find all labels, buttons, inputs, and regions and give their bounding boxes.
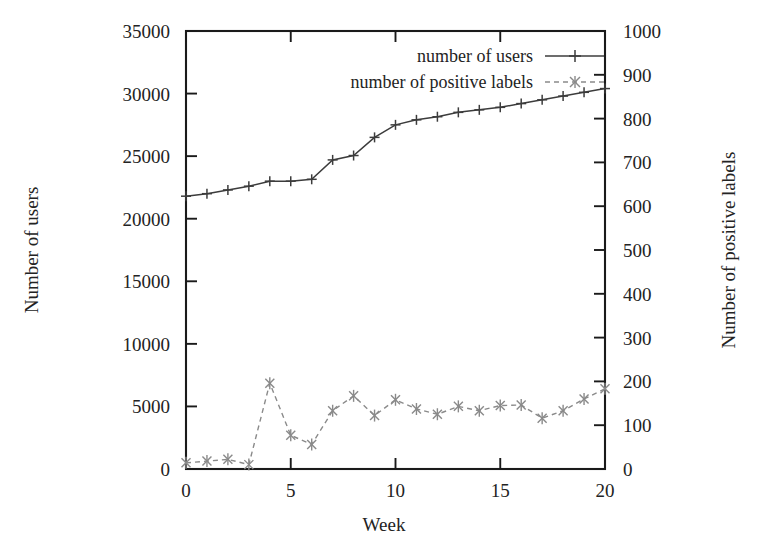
y-tick-label: 25000 bbox=[123, 146, 171, 167]
series-number-of-positive-labels bbox=[182, 377, 610, 470]
data-point-marker bbox=[558, 91, 568, 101]
data-point-marker bbox=[516, 99, 526, 109]
y-tick-label: 15000 bbox=[123, 271, 171, 292]
chart-legend: number of users number of positive label… bbox=[351, 46, 604, 92]
data-point-marker bbox=[223, 185, 233, 195]
data-point-marker bbox=[580, 393, 589, 405]
y2-tick-label: 100 bbox=[623, 415, 652, 436]
data-point-marker bbox=[286, 429, 295, 441]
y-axis-left-labels: 05000100001500020000250003000035000 bbox=[123, 21, 171, 480]
y2-tick-label: 800 bbox=[623, 109, 652, 130]
data-point-marker bbox=[286, 176, 296, 186]
data-point-marker bbox=[265, 377, 274, 389]
y2-axis-title: Number of positive labels bbox=[718, 152, 739, 349]
data-point-marker bbox=[538, 412, 547, 424]
data-point-marker bbox=[559, 405, 568, 417]
data-point-marker bbox=[391, 394, 400, 406]
data-point-marker bbox=[579, 87, 589, 97]
chart-figure: 05000100001500020000250003000035000 0100… bbox=[0, 0, 768, 559]
data-point-marker bbox=[601, 383, 610, 395]
data-point-marker bbox=[474, 105, 484, 115]
y-axis-right-ticks bbox=[594, 31, 605, 469]
series-number-of-users bbox=[181, 84, 610, 202]
y-tick-label: 10000 bbox=[123, 334, 171, 355]
y2-tick-label: 600 bbox=[623, 196, 652, 217]
data-point-marker bbox=[517, 399, 526, 411]
x-axis-labels: 05101520 bbox=[181, 480, 614, 501]
y-axis-left-ticks bbox=[186, 31, 197, 469]
x-tick-label: 20 bbox=[596, 480, 615, 501]
data-point-marker bbox=[244, 181, 254, 191]
y-tick-label: 0 bbox=[161, 459, 171, 480]
data-point-marker bbox=[307, 438, 316, 450]
x-tick-label: 0 bbox=[181, 480, 191, 501]
data-point-marker bbox=[349, 390, 358, 402]
legend-marker-plus-icon bbox=[569, 50, 581, 62]
y-tick-label: 30000 bbox=[123, 84, 171, 105]
y2-tick-label: 700 bbox=[623, 152, 652, 173]
x-tick-label: 5 bbox=[286, 480, 296, 501]
y2-tick-label: 300 bbox=[623, 328, 652, 349]
x-axis-title: Week bbox=[363, 514, 406, 535]
x-tick-label: 15 bbox=[491, 480, 510, 501]
y2-tick-label: 900 bbox=[623, 65, 652, 86]
data-point-marker bbox=[453, 107, 463, 117]
data-point-marker bbox=[202, 189, 212, 199]
y2-tick-label: 500 bbox=[623, 240, 652, 261]
y-axis-right-labels: 01002003004005006007008009001000 bbox=[623, 21, 661, 480]
y2-tick-label: 400 bbox=[623, 284, 652, 305]
data-point-marker bbox=[600, 84, 610, 94]
data-point-marker bbox=[370, 410, 379, 422]
data-point-marker bbox=[412, 403, 421, 415]
y-tick-label: 5000 bbox=[132, 396, 170, 417]
y2-tick-label: 200 bbox=[623, 371, 652, 392]
y-tick-label: 20000 bbox=[123, 209, 171, 230]
data-point-marker bbox=[181, 191, 191, 201]
data-point-marker bbox=[391, 120, 401, 130]
y2-tick-label: 0 bbox=[623, 459, 633, 480]
legend-label-positive: number of positive labels bbox=[351, 72, 533, 92]
data-point-marker bbox=[495, 102, 505, 112]
data-point-marker bbox=[411, 115, 421, 125]
x-tick-label: 10 bbox=[386, 480, 405, 501]
chart-svg: 05000100001500020000250003000035000 0100… bbox=[0, 0, 768, 559]
legend-marker-star-icon bbox=[570, 76, 580, 88]
data-point-marker bbox=[265, 176, 275, 186]
y-axis-title: Number of users bbox=[21, 187, 42, 314]
legend-label-users: number of users bbox=[417, 46, 533, 66]
data-point-marker bbox=[432, 112, 442, 122]
y-tick-label: 35000 bbox=[123, 21, 171, 42]
data-point-marker bbox=[202, 455, 211, 467]
data-point-marker bbox=[537, 95, 547, 105]
y2-tick-label: 1000 bbox=[623, 21, 661, 42]
data-point-marker bbox=[433, 408, 442, 420]
